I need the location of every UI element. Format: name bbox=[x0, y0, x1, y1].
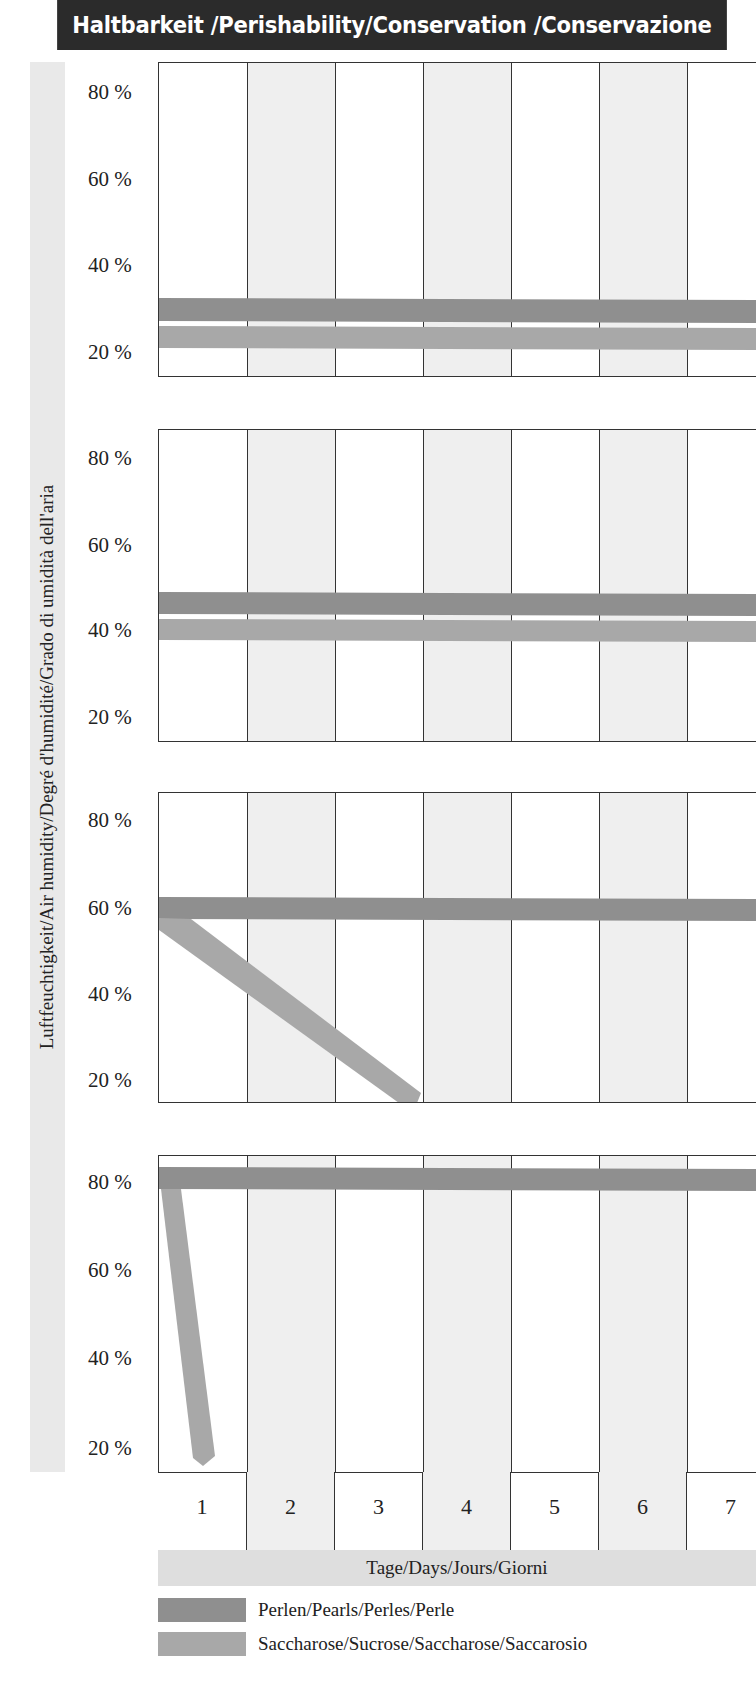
perls-line bbox=[159, 592, 756, 616]
x-tick-6: 6 bbox=[598, 1472, 686, 1550]
chart-panel-1 bbox=[158, 62, 756, 377]
legend-swatch-sucrose bbox=[158, 1632, 246, 1656]
sucrose-line bbox=[159, 619, 756, 642]
y-tick-60: 60 % bbox=[88, 896, 132, 921]
y-tick-40: 40 % bbox=[88, 253, 132, 278]
y-tick-40: 40 % bbox=[88, 1346, 132, 1371]
x-tick-7: 7 bbox=[686, 1472, 756, 1550]
y-tick-60: 60 % bbox=[88, 167, 132, 192]
y-tick-80: 80 % bbox=[88, 80, 132, 105]
x-axis-label: Tage/Days/Jours/Giorni bbox=[158, 1550, 756, 1586]
panel-2-series bbox=[159, 430, 756, 742]
panel-3-series bbox=[159, 793, 756, 1103]
sucrose-line bbox=[161, 1189, 215, 1466]
x-axis: 1 2 3 4 5 6 7 bbox=[158, 1472, 756, 1550]
x-tick-1: 1 bbox=[158, 1472, 246, 1550]
chart-title: Haltbarkeit /Perishability/Conservation … bbox=[57, 0, 727, 50]
perls-line bbox=[159, 298, 756, 323]
x-tick-4: 4 bbox=[422, 1472, 510, 1550]
y-tick-80: 80 % bbox=[88, 808, 132, 833]
sucrose-line bbox=[159, 326, 756, 350]
y-tick-40: 40 % bbox=[88, 618, 132, 643]
legend-label-sucrose: Saccharose/Sucrose/Saccharose/Saccarosio bbox=[258, 1631, 587, 1657]
x-tick-5: 5 bbox=[510, 1472, 598, 1550]
x-tick-3: 3 bbox=[334, 1472, 422, 1550]
y-tick-20: 20 % bbox=[88, 1436, 132, 1461]
panel-4-series bbox=[159, 1156, 756, 1473]
legend-swatch-perls bbox=[158, 1598, 246, 1622]
perls-line bbox=[159, 897, 756, 921]
y-tick-60: 60 % bbox=[88, 1258, 132, 1283]
x-tick-2: 2 bbox=[246, 1472, 334, 1550]
chart-panel-4 bbox=[158, 1155, 756, 1473]
y-tick-80: 80 % bbox=[88, 1170, 132, 1195]
y-tick-60: 60 % bbox=[88, 533, 132, 558]
chart-panel-2 bbox=[158, 429, 756, 742]
y-tick-40: 40 % bbox=[88, 982, 132, 1007]
chart-panel-3 bbox=[158, 792, 756, 1103]
panel-1-series bbox=[159, 63, 756, 377]
perls-line bbox=[159, 1167, 756, 1191]
y-axis-label: Luftfeuchtigkeit/Air humidity/Degré d'hu… bbox=[36, 485, 58, 1050]
y-tick-20: 20 % bbox=[88, 340, 132, 365]
y-tick-20: 20 % bbox=[88, 1068, 132, 1093]
legend-label-perls: Perlen/Pearls/Perles/Perle bbox=[258, 1597, 454, 1623]
sucrose-line bbox=[159, 918, 421, 1103]
y-tick-80: 80 % bbox=[88, 446, 132, 471]
y-tick-20: 20 % bbox=[88, 705, 132, 730]
